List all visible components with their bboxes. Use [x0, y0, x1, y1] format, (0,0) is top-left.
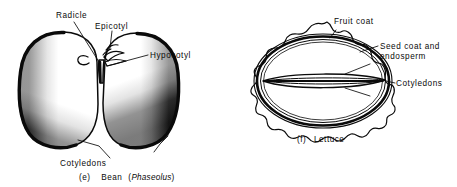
label-seed-coat-line2: endosperm — [380, 52, 426, 61]
label-cotyledons-lettuce: Cotyledons — [396, 79, 442, 88]
bean-caption-name: Bean — [101, 173, 122, 182]
figure-canvas: Radicle Epicotyl Hypocotyl Cotyledons (e… — [0, 0, 457, 187]
bean-left-cotyledon — [19, 32, 98, 148]
seed-structure-figure: Radicle Epicotyl Hypocotyl Cotyledons (e… — [0, 0, 457, 187]
label-seed-coat-line1: Seed coat and — [380, 42, 440, 51]
label-fruit-coat: Fruit coat — [334, 17, 374, 26]
bean-caption-index: (e) — [79, 173, 91, 182]
bean-caption-species: Phaseolus — [131, 173, 171, 182]
lettuce-caption-index: (f) — [297, 135, 306, 144]
lettuce-caption-name: Lettuce — [314, 135, 344, 144]
lettuce-caption: (f) Lettuce — [297, 135, 344, 144]
label-epicotyl: Epicotyl — [95, 22, 128, 31]
label-radicle: Radicle — [56, 11, 87, 20]
label-hypocotyl: Hypocotyl — [150, 51, 191, 60]
label-cotyledons-bean: Cotyledons — [60, 159, 106, 168]
